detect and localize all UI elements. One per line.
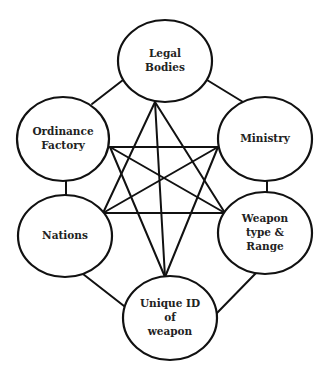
relationship-diagram: LegalBodiesOrdinanceFactoryMinistryNatio… [0, 0, 328, 375]
node-label: Range [246, 240, 284, 252]
node-label: type & [246, 226, 285, 238]
node-label: Unique ID [140, 297, 200, 309]
node-label: Ordinance [32, 125, 93, 137]
node-label: Bodies [145, 61, 185, 73]
node-label: Nations [42, 229, 88, 241]
node-weapon: Weapontype &Range [218, 192, 312, 274]
edge-legal-ordinance [92, 80, 123, 104]
node-legal: LegalBodies [118, 20, 212, 102]
star-edge-legal-uniqueid [155, 102, 165, 277]
node-label: weapon [147, 325, 193, 337]
edge-legal-ministry [207, 80, 243, 102]
node-label: Weapon [241, 212, 289, 224]
node-label: of [164, 311, 177, 323]
edge-nations-uniqueid [83, 274, 124, 306]
node-ordinance: OrdinanceFactory [17, 97, 109, 181]
node-label: Ministry [240, 132, 291, 144]
node-label: Factory [41, 139, 85, 151]
node-uniqueid: Unique IDofweapon [123, 276, 217, 360]
edge-weapon-uniqueid [216, 273, 256, 314]
node-nations: Nations [18, 195, 112, 277]
node-ministry: Ministry [218, 97, 312, 181]
node-label: Legal [149, 47, 181, 59]
star-edge-ordinance-weapon [110, 147, 225, 213]
